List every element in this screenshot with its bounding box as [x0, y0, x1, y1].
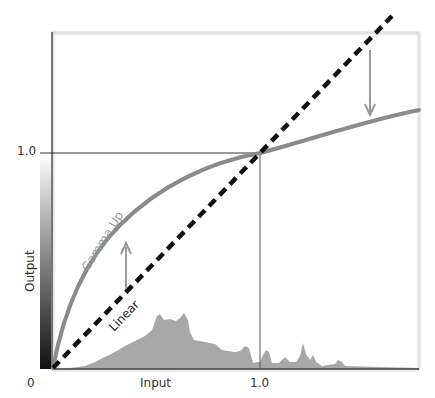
x-tick-zero: 0	[27, 376, 35, 390]
linear-line	[53, 16, 392, 368]
gamma-diagram: Gamma Up Linear Output	[0, 0, 435, 398]
output-axis-label: Output	[23, 250, 37, 292]
linear-label: Linear	[106, 297, 142, 334]
x-axis-label: Input	[140, 376, 171, 390]
x-tick-one: 1.0	[250, 376, 269, 390]
histogram	[52, 313, 419, 369]
output-gradient-bar	[40, 153, 52, 369]
lower-arrow-icon	[365, 50, 375, 115]
raise-arrow-icon	[121, 243, 131, 289]
gamma-up-label: Gamma Up	[79, 209, 127, 274]
y-tick-one: 1.0	[17, 144, 36, 158]
frame-shadow	[53, 33, 419, 370]
